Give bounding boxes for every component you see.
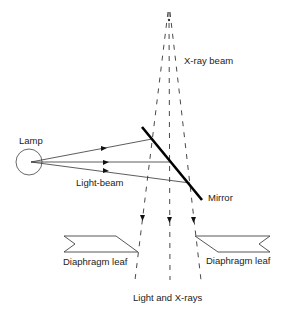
xray-beam-center xyxy=(169,12,170,280)
label-mirror: Mirror xyxy=(208,192,233,203)
arrow-icon xyxy=(103,160,109,165)
arrow-down-icon xyxy=(191,217,196,223)
label-xray-beam: X-ray beam xyxy=(184,55,233,66)
diaphragm-leaf-left xyxy=(64,236,138,252)
label-light-and-xrays: Light and X-rays xyxy=(133,292,202,303)
mirror xyxy=(142,127,202,200)
xray-focal-spot xyxy=(168,19,170,21)
xray-beam-right-edge xyxy=(170,12,201,280)
reflected-arrows xyxy=(140,215,196,223)
label-lamp: Lamp xyxy=(19,135,43,146)
arrow-down-icon xyxy=(140,215,145,221)
label-diaphragm-leaf-right: Diaphragm leaf xyxy=(206,255,271,266)
label-diaphragm-leaf-left: Diaphragm leaf xyxy=(63,256,128,267)
light-ray-top xyxy=(31,139,152,162)
diaphragm-leaf-right xyxy=(195,236,270,252)
arrow-down-icon xyxy=(167,217,172,223)
xray-beam-lines xyxy=(135,12,201,280)
label-light-beam: Light-beam xyxy=(76,177,124,188)
collimator-diagram: X-ray beam Lamp Light-beam Mirror Diaphr… xyxy=(0,0,293,319)
xray-beam-left-edge xyxy=(135,12,168,280)
arrow-icon xyxy=(101,146,107,151)
